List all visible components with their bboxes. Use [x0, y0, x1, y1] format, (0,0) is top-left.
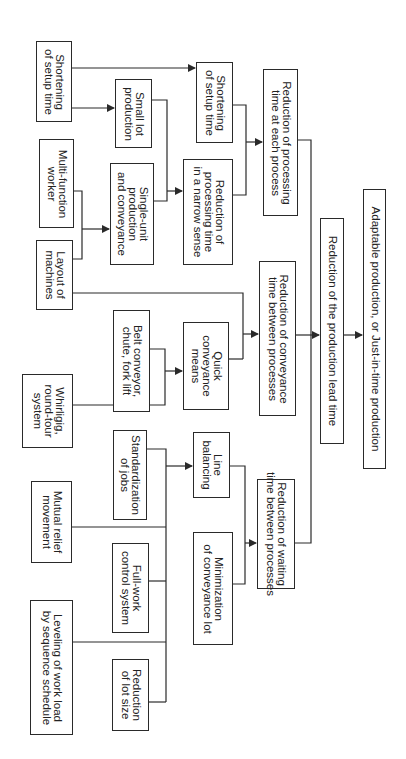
- node-reduction-waiting: Reduction of waiting time between proces…: [257, 479, 295, 589]
- node-reduction-lead-time: Reduction of the production lead time: [320, 218, 344, 444]
- node-label: Minimization of conveyance lot: [202, 544, 224, 634]
- node-label: Single-unit production and conveyance: [116, 172, 149, 256]
- node-label: Line balancing: [201, 440, 223, 489]
- node-layout-machines: Layout of machines: [36, 240, 73, 310]
- node-mutual-relief: Mutual relief movement: [31, 481, 72, 563]
- node-small-lot-production: Small lot production: [115, 79, 152, 148]
- node-label: Reduction of the production lead time: [327, 236, 338, 427]
- node-label: Reduction of lot size: [120, 669, 142, 721]
- node-label: Whirligig, round-tour system: [31, 384, 64, 437]
- node-label: Reduction of conveyance time between pro…: [267, 274, 289, 403]
- node-shortening-setup-left: Shortening of setup time: [36, 41, 72, 122]
- node-single-unit-production: Single-unit production and conveyance: [110, 163, 154, 265]
- node-label: Reduction of processing time at each pro…: [270, 81, 292, 204]
- node-full-work-control: Full-work control system: [112, 543, 149, 633]
- node-reduction-processing-narrow: Reduction of processing time in a narrow…: [183, 159, 233, 265]
- node-label: Reduction of processing time in a narrow…: [192, 167, 225, 258]
- node-standardization-jobs: Standardization of jobs: [113, 430, 147, 520]
- node-label: Small lot production: [123, 87, 145, 141]
- diagram-canvas: Shortening of setup time Small lot produ…: [0, 0, 406, 759]
- node-label: Full-work control system: [120, 551, 142, 625]
- node-minimization-conveyance-lot: Minimization of conveyance lot: [193, 532, 233, 645]
- node-whirligig: Whirligig, round-tour system: [22, 374, 73, 448]
- node-label: Layout of machines: [44, 250, 66, 299]
- node-belt-conveyor: Belt conveyor, chute, fork lift: [113, 310, 150, 412]
- node-label: Shortening of setup time: [204, 70, 226, 136]
- node-reduction-lot-size: Reduction of lot size: [112, 659, 149, 731]
- node-label: Standardization of jobs: [119, 435, 141, 515]
- node-leveling-work-load: Leveling of work load by sequence schedu…: [30, 600, 73, 735]
- node-label: Mutual relief movement: [41, 491, 63, 554]
- node-label: Belt conveyor, chute, fork lift: [121, 325, 143, 397]
- node-adaptable-production: Adaptable production, or Just-in-time pr…: [363, 189, 386, 469]
- node-label: Shortening of setup time: [43, 49, 65, 115]
- node-label: Adaptable production, or Just-in-time pr…: [369, 207, 380, 452]
- node-line-balancing: Line balancing: [193, 432, 230, 498]
- node-label: Reduction of waiting time between proces…: [265, 472, 287, 596]
- node-quick-conveyance: Quick conveyance means: [183, 322, 229, 410]
- node-label: Quick conveyance means: [190, 335, 223, 396]
- node-shortening-setup-mid: Shortening of setup time: [196, 62, 233, 143]
- node-label: Multi-function worker: [46, 149, 68, 217]
- node-reduction-conveyance: Reduction of conveyance time between pro…: [259, 261, 296, 416]
- node-reduction-processing-each: Reduction of processing time at each pro…: [263, 69, 298, 216]
- node-label: Leveling of work load by sequence schedu…: [41, 610, 63, 724]
- node-multi-function-worker: Multi-function worker: [39, 139, 74, 228]
